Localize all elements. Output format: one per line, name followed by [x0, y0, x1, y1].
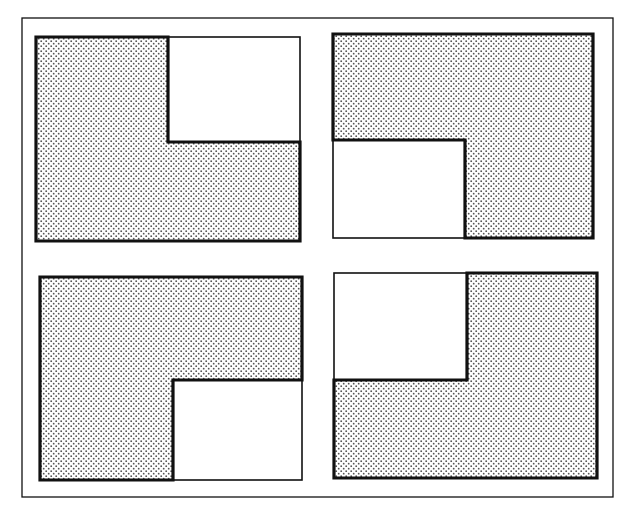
empty-quadrant-top-right [168, 37, 300, 142]
panel-top-left [36, 37, 300, 241]
empty-quadrant-top-left [334, 273, 467, 380]
panel-bottom-left [40, 277, 302, 480]
panel-top-right [333, 34, 593, 238]
panel-bottom-right [334, 273, 597, 478]
empty-quadrant-bottom-left [333, 140, 465, 238]
figure-canvas [0, 0, 633, 517]
empty-quadrant-bottom-right [173, 380, 302, 480]
